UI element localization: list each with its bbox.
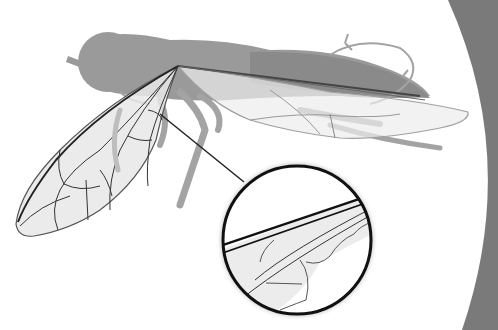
insect-wing-diagram (0, 0, 498, 330)
